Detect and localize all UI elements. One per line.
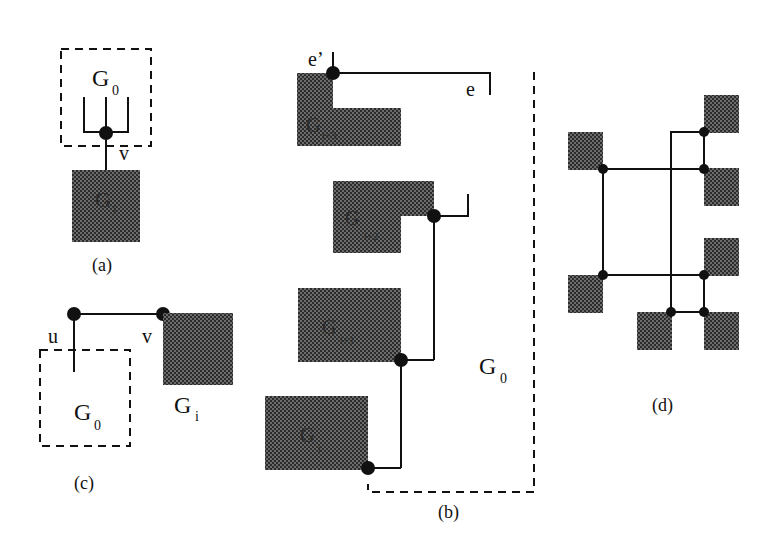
block-gi1 <box>298 288 401 362</box>
block-d3 <box>704 168 739 206</box>
gi-label: G <box>174 392 191 418</box>
vertex-gi <box>361 461 375 475</box>
v-label: v <box>142 325 152 347</box>
gi-block-subscript: i <box>113 202 117 217</box>
block-gi2-subscript: i+2 <box>364 230 379 242</box>
block-d2 <box>568 132 603 170</box>
block-d7 <box>704 312 739 350</box>
d-vertices <box>598 127 709 317</box>
gi-subscript: i <box>195 409 199 424</box>
block-d1 <box>704 95 739 133</box>
vertex-gi1 <box>394 353 408 367</box>
vertex-e-prime <box>326 66 340 80</box>
block-d6 <box>637 312 672 350</box>
g0-label: G <box>74 399 91 425</box>
panel-a: G 0 v G i (a) <box>61 49 151 276</box>
block-d5 <box>568 275 603 313</box>
block-gi1-subscript: i+1 <box>340 334 355 346</box>
figure-canvas: G 0 v G i (a) u v G i G 0 (c) G <box>0 0 777 547</box>
v-label: v <box>119 142 129 164</box>
gi-block <box>163 313 233 385</box>
g0-subscript: 0 <box>112 83 119 98</box>
block-gi-subscript: i <box>318 442 321 454</box>
g0-label: G <box>479 353 496 379</box>
caption-d: (d) <box>652 395 673 416</box>
e-label: e <box>466 78 475 100</box>
block-gi2-label: G <box>345 207 359 229</box>
panel-b: G 0 G i+3 e’ e G i+2 G i+1 <box>265 48 534 523</box>
gi-block-label: G <box>95 187 111 212</box>
block-gi3-label: G <box>306 114 320 136</box>
vertex-v <box>99 126 113 140</box>
u-label: u <box>48 325 58 347</box>
g0-region-dashed <box>40 350 130 446</box>
block-gi1-label: G <box>322 316 336 338</box>
edge-gi1 <box>401 360 434 468</box>
e-prime-label: e’ <box>308 48 324 70</box>
g0-subscript: 0 <box>500 371 507 386</box>
g0-subscript: 0 <box>94 418 101 433</box>
vertex-u <box>67 307 81 321</box>
caption-b: (b) <box>438 502 459 523</box>
block-gi <box>265 396 368 470</box>
caption-a: (a) <box>92 255 112 276</box>
d-edges <box>603 132 704 312</box>
vertex-gi2 <box>427 209 441 223</box>
block-d4 <box>704 238 739 276</box>
block-gi3-subscript: i+3 <box>322 129 337 141</box>
caption-c: (c) <box>74 473 94 494</box>
g0-label: G <box>92 65 109 91</box>
panel-d: (d) <box>568 95 739 416</box>
block-gi-label: G <box>300 424 314 446</box>
panel-c: u v G i G 0 (c) <box>40 307 233 494</box>
